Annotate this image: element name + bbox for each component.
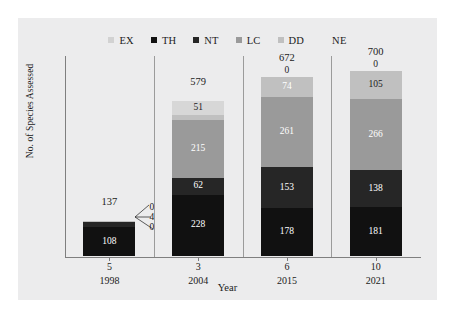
bar-total-label: 579 <box>190 76 206 87</box>
bar-total-label: 672 <box>279 52 295 63</box>
bar-group: 5121562228579 <box>172 56 224 256</box>
panel-separator <box>331 56 332 257</box>
bar-segment-lc[interactable]: 261 <box>261 97 313 167</box>
segment-value-label: 266 <box>350 130 402 140</box>
x-tick-count-label: 5 <box>79 261 139 272</box>
legend-swatch-dd-icon <box>278 37 284 43</box>
legend-item-ne[interactable]: NE <box>321 35 346 46</box>
bar-segment-th[interactable]: 228 <box>172 195 224 256</box>
legend-swatch-lc-icon <box>236 37 242 43</box>
legend-swatch-nt-icon <box>193 37 199 43</box>
x-tick-count-label: 6 <box>257 261 317 272</box>
bar-total-label: 137 <box>102 196 118 207</box>
bar-total-label: 700 <box>368 46 384 57</box>
x-tick-count-label: 10 <box>346 261 406 272</box>
segment-value-label: 108 <box>83 237 135 247</box>
legend-swatch-th-icon <box>151 37 157 43</box>
bar-segment-lc[interactable]: 215 <box>172 120 224 178</box>
legend-label: LC <box>247 35 261 46</box>
bar-segment-th[interactable]: 178 <box>261 208 313 256</box>
bar-segment-dd[interactable]: 74 <box>261 77 313 97</box>
legend-swatch-ex-icon <box>108 37 114 43</box>
segment-value-label: 215 <box>172 144 224 154</box>
bar-segment-nt[interactable]: 138 <box>350 170 402 207</box>
x-tick-count-label: 3 <box>168 261 228 272</box>
x-axis-title: Year <box>18 282 437 293</box>
segment-value-label: 138 <box>350 184 402 194</box>
bar-segment-nt[interactable]: 153 <box>261 167 313 208</box>
bar-group: 1052661381817000 <box>350 56 402 256</box>
segment-value-label: 178 <box>261 227 313 237</box>
legend-item-dd[interactable]: DD <box>278 35 305 46</box>
bar-segment-nt[interactable]: 62 <box>172 178 224 195</box>
chart-figure: EXTHNTLCDDNE No. of Species Assessed 108… <box>18 18 437 300</box>
legend-label: NE <box>332 35 346 46</box>
x-axis-line <box>65 257 421 258</box>
legend-label: DD <box>289 35 305 46</box>
bar-group: 108137040 <box>83 56 135 256</box>
bar-segment-th[interactable]: 108 <box>83 227 135 256</box>
y-axis-title: No. of Species Assessed <box>25 36 35 186</box>
legend-item-ex[interactable]: EX <box>108 35 133 46</box>
legend-label: EX <box>119 35 133 46</box>
stacked-bar[interactable]: 5121562228 <box>172 101 224 256</box>
bar-segment-lc[interactable]: 266 <box>350 99 402 170</box>
bar-segment-ex[interactable]: 51 <box>172 101 224 115</box>
legend-item-lc[interactable]: LC <box>236 35 261 46</box>
segment-value-label: 105 <box>350 80 402 90</box>
legend-swatch-ne-icon <box>321 37 327 43</box>
bar-segment-dd[interactable]: 105 <box>350 71 402 99</box>
legend-label: NT <box>204 35 218 46</box>
panel-separator <box>243 56 244 257</box>
bar-group: 742611531786720 <box>261 56 313 256</box>
segment-value-label: 228 <box>172 220 224 230</box>
segment-value-label: 261 <box>261 127 313 137</box>
segment-value-label: 153 <box>261 183 313 193</box>
segment-value-label: 62 <box>172 181 224 191</box>
legend-label: TH <box>162 35 176 46</box>
segment-value-label-ex: 0 <box>373 59 378 69</box>
stacked-bar[interactable]: 74261153178 <box>261 77 313 256</box>
panel-separator <box>154 56 155 257</box>
segment-value-label: 74 <box>261 82 313 92</box>
legend-item-th[interactable]: TH <box>151 35 176 46</box>
segment-value-label: 181 <box>350 227 402 237</box>
bar-segment-th[interactable]: 181 <box>350 207 402 256</box>
stacked-bar[interactable]: 105266138181 <box>350 71 402 256</box>
stacked-bar[interactable]: 108 <box>83 221 135 256</box>
segment-value-label: 51 <box>172 103 224 113</box>
segment-value-label-ex: 0 <box>285 65 290 75</box>
legend-item-nt[interactable]: NT <box>193 35 218 46</box>
